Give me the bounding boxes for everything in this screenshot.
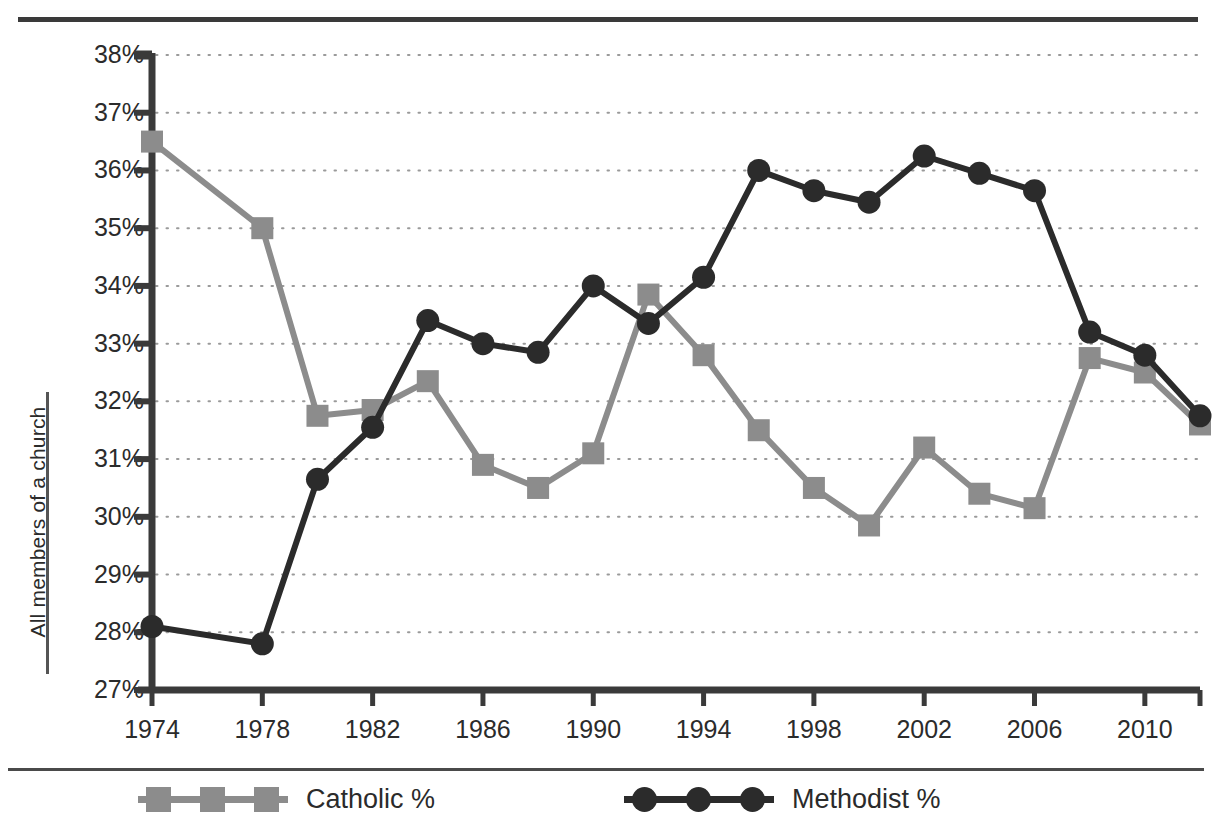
data-point[interactable] [968,483,990,505]
data-point[interactable] [803,477,825,499]
data-point[interactable] [913,145,936,168]
data-point[interactable] [748,419,770,441]
data-point[interactable] [968,162,991,185]
data-point[interactable] [416,309,439,332]
legend-swatch-catholic-icon [138,782,288,816]
data-point[interactable] [141,615,164,638]
data-point[interactable] [141,131,163,153]
data-point[interactable] [913,437,935,459]
data-point[interactable] [251,217,273,239]
data-point[interactable] [1079,347,1101,369]
plot-area [0,0,1213,830]
series-catholic [141,131,1211,537]
data-point[interactable] [858,191,881,214]
data-point[interactable] [527,341,550,364]
legend-label-methodist: Methodist % [792,784,941,815]
data-point[interactable] [306,405,328,427]
data-point[interactable] [802,179,825,202]
data-point[interactable] [692,266,715,289]
legend-swatch-methodist-icon [624,782,774,816]
legend-entry-catholic[interactable]: Catholic % [138,782,435,816]
data-point[interactable] [747,159,770,182]
chart-figure: All members of a church 38%37%36%35%34%3… [0,0,1213,830]
data-point[interactable] [361,416,384,439]
legend-entry-methodist[interactable]: Methodist % [624,782,941,816]
data-point[interactable] [582,274,605,297]
legend-label-catholic: Catholic % [306,784,435,815]
data-point[interactable] [472,454,494,476]
data-point[interactable] [858,514,880,536]
series-line [152,142,1200,526]
data-point[interactable] [251,632,274,655]
data-point[interactable] [1023,179,1046,202]
data-point[interactable] [1078,321,1101,344]
data-point[interactable] [582,442,604,464]
data-point[interactable] [527,477,549,499]
bottom-divider-rule [8,768,1204,771]
series-line [152,156,1200,644]
series-methodist [141,145,1212,656]
data-point[interactable] [1189,404,1212,427]
data-point[interactable] [471,332,494,355]
data-point[interactable] [693,344,715,366]
data-point[interactable] [1133,344,1156,367]
chart-legend: Catholic % Methodist % [0,780,1213,826]
data-point[interactable] [417,370,439,392]
data-point[interactable] [637,312,660,335]
data-point[interactable] [306,468,329,491]
data-point[interactable] [637,284,659,306]
data-point[interactable] [1024,497,1046,519]
